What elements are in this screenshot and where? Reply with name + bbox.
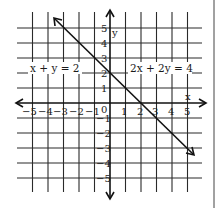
- y-tick-neg1: −1: [96, 113, 111, 124]
- line-x-plus-y-eq-2: [54, 18, 194, 155]
- equation-left: x + y = 2: [30, 62, 79, 74]
- coordinate-plane: −5 −4 −3 −2 −1 0 1 2 3 4 5 x 5 4 3 2 1 −…: [0, 0, 216, 208]
- x-tick-3: 3: [152, 106, 158, 117]
- y-tick-1: 1: [101, 83, 107, 94]
- x-tick-4: 4: [168, 106, 174, 117]
- y-tick-neg3: −3: [96, 143, 111, 154]
- x-tick-neg2: −2: [69, 106, 84, 117]
- equation-right: 2x + 2y = 4: [130, 62, 193, 74]
- x-axis-label: x: [185, 91, 191, 102]
- graph-figure: −5 −4 −3 −2 −1 0 1 2 3 4 5 x 5 4 3 2 1 −…: [0, 0, 216, 208]
- x-tick-neg3: −3: [53, 106, 68, 117]
- x-tick-1: 1: [121, 106, 127, 117]
- y-tick-neg2: −2: [96, 128, 111, 139]
- x-tick-neg4: −4: [38, 106, 53, 117]
- x-tick-neg5: −5: [22, 106, 37, 117]
- y-tick-4: 4: [101, 38, 107, 49]
- y-axis-label: y: [111, 27, 118, 38]
- y-tick-3: 3: [101, 53, 107, 64]
- y-tick-2: 2: [101, 68, 107, 79]
- y-tick-5: 5: [101, 23, 107, 34]
- x-tick-2: 2: [137, 106, 143, 117]
- y-tick-neg5: −5: [96, 173, 111, 184]
- x-tick-5: 5: [184, 106, 190, 117]
- y-tick-neg4: −4: [96, 158, 111, 169]
